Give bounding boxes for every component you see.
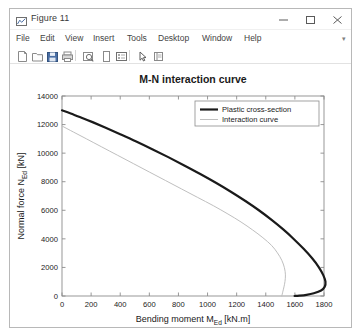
y-tick-label: 14000	[37, 92, 58, 101]
x-tick-label: 1000	[199, 300, 216, 309]
menu-bar: File Edit View Insert Tools Desktop Wind…	[10, 30, 351, 47]
toolbar-separator	[75, 50, 76, 61]
data-cursor-icon[interactable]	[152, 49, 165, 62]
y-tick-label: 12000	[37, 120, 58, 129]
chevron-down-icon[interactable]: ▾	[342, 35, 346, 43]
menu-desktop[interactable]: Desktop	[158, 33, 189, 43]
matlab-figure-icon	[16, 13, 27, 24]
close-icon[interactable]	[324, 9, 351, 30]
menu-help[interactable]: Help	[244, 33, 261, 43]
x-tick-label: 800	[172, 300, 185, 309]
save-figure-icon[interactable]	[46, 49, 59, 62]
chart-legend: Plastic cross-section Interaction curve	[195, 101, 319, 126]
y-tick-label: 6000	[41, 206, 58, 215]
menu-window[interactable]: Window	[202, 33, 232, 43]
y-tick-label: 8000	[41, 177, 58, 186]
minimize-icon[interactable]	[270, 9, 297, 30]
print-figure-icon[interactable]	[61, 49, 74, 62]
insert-colorbar-icon[interactable]	[100, 49, 113, 62]
mn-interaction-plot: M-N interaction curve 020040060080010001…	[10, 64, 351, 327]
x-tick-label: 600	[143, 300, 156, 309]
x-tick-label: 1600	[286, 300, 303, 309]
x-tick-label: 0	[60, 300, 64, 309]
y-axis-label: Normal force NEd [kN]	[16, 152, 28, 239]
menu-file[interactable]: File	[16, 33, 30, 43]
x-tick-label: 1400	[257, 300, 274, 309]
x-axis-label: Bending moment MEd [kN.m]	[136, 314, 251, 326]
y-tick-label: 10000	[37, 149, 58, 158]
chart-title: M-N interaction curve	[139, 73, 247, 85]
y-tick-label: 2000	[41, 263, 58, 272]
legend-label-interaction-curve: Interaction curve	[222, 115, 278, 124]
pointer-tool-icon[interactable]	[136, 49, 149, 62]
maximize-icon[interactable]	[297, 9, 324, 30]
figure-toolbar	[10, 47, 351, 64]
legend-label-plastic-cross-section: Plastic cross-section	[222, 105, 291, 114]
figure-canvas: M-N interaction curve 020040060080010001…	[10, 64, 351, 327]
y-tick-label: 4000	[41, 235, 58, 244]
title-bar: Figure 11	[10, 9, 351, 30]
open-file-icon[interactable]	[31, 49, 44, 62]
new-figure-icon[interactable]	[16, 49, 29, 62]
zoom-link-icon[interactable]	[82, 49, 95, 62]
window-title: Figure 11	[31, 13, 69, 23]
y-tick-label: 0	[54, 292, 58, 301]
menu-tools[interactable]: Tools	[127, 33, 147, 43]
menu-insert[interactable]: Insert	[93, 33, 114, 43]
x-tick-label: 1200	[228, 300, 245, 309]
x-tick-label: 400	[114, 300, 127, 309]
x-tick-label: 1800	[316, 300, 333, 309]
toolbar-separator	[129, 50, 130, 61]
menu-view[interactable]: View	[65, 33, 83, 43]
figure-window: Figure 11 File Edit View Insert Tools De…	[9, 8, 352, 328]
insert-legend-icon[interactable]	[115, 49, 128, 62]
menu-edit[interactable]: Edit	[40, 33, 55, 43]
x-tick-label: 200	[85, 300, 98, 309]
